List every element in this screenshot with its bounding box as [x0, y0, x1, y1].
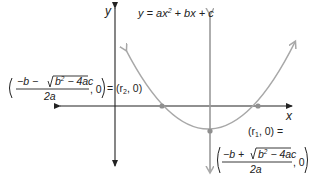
- equation-label: y = ax2 + bx + c: [137, 7, 214, 19]
- svg-text:−b +: −b +: [223, 148, 244, 160]
- left-root-formula: −b − b2 − 4ac 2a , 0 = (r2, 0): [10, 75, 143, 102]
- root-r2-point: [159, 103, 164, 108]
- svg-text:= (r2, 0): = (r2, 0): [107, 82, 142, 95]
- svg-text:(r1, 0) =: (r1, 0) =: [248, 125, 283, 138]
- right-root-formula: (r1, 0) = −b + b2 − 4ac 2a , 0: [218, 125, 308, 175]
- svg-text:2a: 2a: [43, 90, 56, 102]
- svg-text:2a: 2a: [249, 163, 262, 175]
- vertex-point: [207, 128, 212, 133]
- x-axis-label: x: [285, 109, 293, 123]
- svg-text:, 0: , 0: [293, 156, 305, 168]
- svg-text:−b −: −b −: [17, 75, 38, 87]
- svg-text:b2 − 4ac: b2 − 4ac: [55, 75, 94, 87]
- quadratic-diagram: y x y = ax2 + bx + c −b − b2 − 4ac 2a , …: [0, 0, 315, 182]
- root-r1-point: [255, 103, 260, 108]
- svg-text:, 0: , 0: [90, 83, 102, 95]
- svg-text:b2 − 4ac: b2 − 4ac: [258, 148, 297, 160]
- y-axis-label: y: [104, 4, 112, 18]
